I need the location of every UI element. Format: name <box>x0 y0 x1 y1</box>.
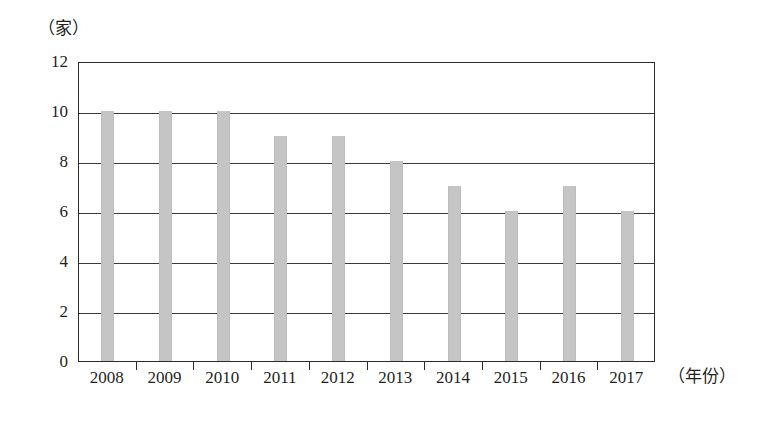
x-axis-tick-label: 2013 <box>365 367 425 389</box>
bar <box>448 186 461 361</box>
y-axis-tick-label: 8 <box>32 153 68 170</box>
x-axis-tick-label: 2014 <box>423 367 483 389</box>
plot-inner <box>79 63 654 361</box>
x-axis-title: （年份） <box>668 366 736 388</box>
x-axis-tick-label: 2009 <box>135 367 195 389</box>
plot-area <box>78 62 655 362</box>
y-axis-tick-label: 4 <box>32 253 68 270</box>
y-axis-tick-label: 6 <box>32 203 68 220</box>
x-axis-tick-label: 2015 <box>481 367 541 389</box>
x-axis-tick-label: 2008 <box>77 367 137 389</box>
bar <box>274 136 287 361</box>
x-axis-tick-label: 2016 <box>538 367 598 389</box>
x-axis-tick-label: 2011 <box>250 367 310 389</box>
bar <box>563 186 576 361</box>
x-axis-tick-label: 2012 <box>308 367 368 389</box>
bar <box>217 111 230 361</box>
bar <box>332 136 345 361</box>
x-axis-tick-label: 2010 <box>192 367 252 389</box>
x-axis-tick-label: 2017 <box>596 367 656 389</box>
y-axis-unit-label: （家） <box>38 18 89 40</box>
y-axis-tick-label: 2 <box>32 303 68 320</box>
bar <box>159 111 172 361</box>
bar <box>390 161 403 361</box>
bar <box>101 111 114 361</box>
bar <box>621 211 634 361</box>
bar-chart: （家） 024681012 20082009201020112012201320… <box>0 0 768 422</box>
y-axis-tick-label: 10 <box>32 103 68 120</box>
bar <box>505 211 518 361</box>
y-axis-tick-label: 12 <box>32 53 68 70</box>
y-axis-tick-label: 0 <box>32 353 68 370</box>
